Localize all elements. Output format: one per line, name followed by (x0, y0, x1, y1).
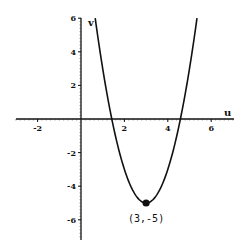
curve-layer (95, 18, 197, 203)
y-tick-label: 2 (70, 80, 76, 90)
x-tick-label: -2 (33, 123, 42, 133)
parabola-chart: -2246642-2-4-6 (3,-5) u v (0, 0, 249, 252)
annotation-layer: (3,-5) (128, 199, 164, 224)
vertex-marker (143, 199, 150, 206)
x-axis-label: u (224, 107, 231, 118)
y-tick-label: -6 (67, 215, 76, 225)
y-tick-label: -4 (67, 181, 76, 191)
x-tick-label: 6 (208, 123, 214, 133)
x-tick-label: 4 (165, 123, 171, 133)
y-axis-label: v (87, 17, 95, 28)
parabola-line (95, 18, 197, 203)
x-tick-label: 2 (122, 123, 128, 133)
y-tick-label: -2 (67, 148, 76, 158)
y-tick-label: 4 (70, 47, 76, 57)
y-tick-label: 6 (70, 13, 76, 23)
ticks: -2246642-2-4-6 (16, 13, 233, 236)
vertex-label: (3,-5) (128, 213, 164, 224)
